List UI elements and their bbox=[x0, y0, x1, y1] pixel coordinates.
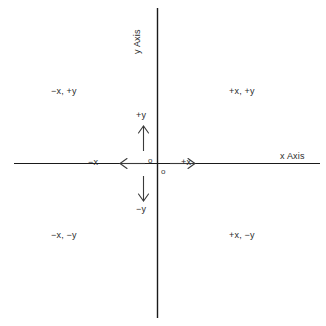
positive-y-label: +y bbox=[136, 111, 146, 120]
minus-y-arrow bbox=[139, 176, 149, 201]
quadrant-i-label: +x, +y bbox=[229, 87, 255, 96]
quadrant-iii-label: −x, −y bbox=[51, 231, 77, 240]
coordinate-axes-diagram: y Axis x Axis o o +x −x +y −y +x, +y −x,… bbox=[0, 0, 326, 326]
negative-y-label: −y bbox=[136, 205, 146, 214]
origin-label-upper-left: o bbox=[148, 157, 153, 165]
y-axis-label: y Axis bbox=[133, 29, 142, 54]
origin-label-lower-right: o bbox=[161, 168, 166, 176]
positive-x-label: +x bbox=[181, 158, 191, 167]
x-axis-label: x Axis bbox=[280, 152, 305, 161]
negative-x-label: −x bbox=[88, 158, 98, 167]
axes-drawing-layer bbox=[0, 0, 326, 326]
minus-x-arrow bbox=[120, 159, 145, 169]
quadrant-ii-label: −x, +y bbox=[51, 87, 77, 96]
plus-y-arrow bbox=[139, 126, 149, 151]
quadrant-iv-label: +x, −y bbox=[229, 231, 255, 240]
